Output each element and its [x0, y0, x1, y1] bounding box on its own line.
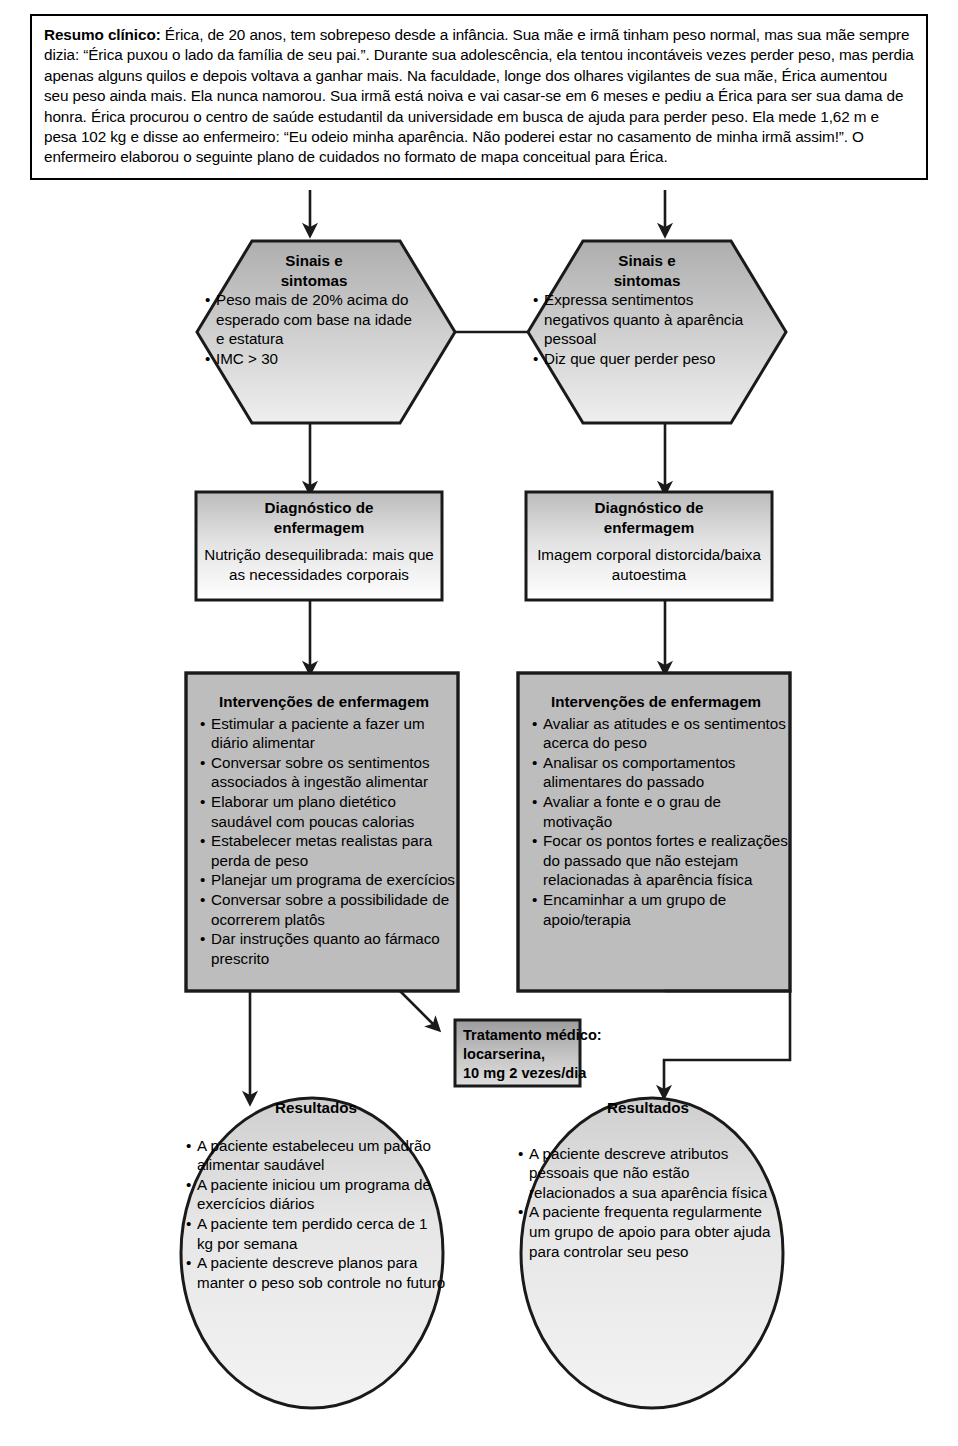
outcomes-left-title: Resultados	[186, 1098, 446, 1118]
outcomes-left-text: Resultados A paciente estabeleceu um pad…	[186, 1098, 446, 1292]
dx-right-title-line1: Diagnóstico de	[526, 498, 772, 518]
concept-map-page: Resumo clínico: Érica, de 20 anos, tem s…	[0, 0, 958, 1446]
interventions-right-bullet-list: Avaliar as atitudes e os sentimentos ace…	[532, 714, 790, 930]
interventions-left-bullet-list: Estimular a paciente a fazer um diário a…	[200, 714, 458, 969]
connector-group-top	[310, 190, 665, 230]
connector-group-dx-to-int	[310, 600, 665, 668]
interventions-left-bullet-4: Estabelecer metas realistas para perda d…	[200, 831, 458, 870]
interventions-left-bullet-5: Planejar um programa de exercícios	[200, 870, 458, 890]
connector-int-left-to-treatment	[400, 991, 435, 1026]
interventions-left-bullet-7: Dar instruções quanto ao fármaco prescri…	[200, 929, 458, 968]
interventions-right-text: Intervenções de enfermagem Avaliar as at…	[522, 692, 790, 929]
interventions-left-bullet-2: Conversar sobre os sentimentos associado…	[200, 753, 458, 792]
treatment-line-3: 10 mg 2 vezes/dia	[463, 1064, 603, 1083]
interventions-right-bullet-1: Avaliar as atitudes e os sentimentos ace…	[532, 714, 790, 753]
treatment-text: Tratamento médico: locarserina, 10 mg 2 …	[463, 1026, 603, 1083]
interventions-left-text: Intervenções de enfermagem Estimular a p…	[190, 692, 458, 968]
signs-left-bullet-1: Peso mais de 20% acima do esperado com b…	[205, 290, 423, 349]
interventions-right-bullet-2: Analisar os comportamentos alimentares d…	[532, 753, 790, 792]
interventions-left-bullet-6: Conversar sobre a possibilidade de ocorr…	[200, 890, 458, 929]
signs-left-title-line2: sintomas	[205, 271, 423, 291]
signs-right-title-line1: Sinais e	[533, 251, 761, 271]
outcomes-left-bullet-2: A paciente iniciou um programa de exercí…	[186, 1175, 446, 1214]
signs-right-title-line2: sintomas	[533, 271, 761, 291]
dx-right-title-line2: enfermagem	[526, 518, 772, 538]
outcomes-left-bullet-3: A paciente tem perdido cerca de 1 kg por…	[186, 1214, 446, 1253]
dx-right-body: Imagem corporal distorcida/baixa autoest…	[526, 545, 772, 584]
interventions-left-bullet-3: Elaborar um plano dietético saudável com…	[200, 792, 458, 831]
interventions-right-bullet-5: Encaminhar a um grupo de apoio/terapia	[532, 890, 790, 929]
treatment-line-2: locarserina,	[463, 1045, 603, 1064]
dx-left-title-line1: Diagnóstico de	[196, 498, 442, 518]
diagnosis-left-text: Diagnóstico de enfermagem Nutrição deseq…	[196, 498, 442, 584]
connector-group-signs-to-dx	[310, 423, 665, 488]
dx-left-body: Nutrição desequilibrada: mais que as nec…	[196, 545, 442, 584]
signs-left-bullet-list: Peso mais de 20% acima do esperado com b…	[205, 290, 423, 368]
diagnosis-right-text: Diagnóstico de enfermagem Imagem corpora…	[526, 498, 772, 584]
signs-left-title-line1: Sinais e	[205, 251, 423, 271]
connector-int-right-to-outcome-right	[664, 991, 790, 1092]
interventions-left-title: Intervenções de enfermagem	[190, 692, 458, 712]
interventions-right-title: Intervenções de enfermagem	[522, 692, 790, 712]
diagram-canvas	[0, 0, 958, 1446]
outcomes-right-title: Resultados	[518, 1098, 778, 1118]
outcomes-left-bullet-list: A paciente estabeleceu um padrão aliment…	[186, 1136, 446, 1293]
signs-right-bullet-2: Diz que quer perder peso	[533, 349, 761, 369]
signs-symptoms-right-text: Sinais e sintomas Expressa sentimentos n…	[533, 251, 761, 369]
outcomes-right-text: Resultados A paciente descreve atributos…	[518, 1098, 778, 1261]
interventions-right-bullet-4: Focar os pontos fortes e realizações do …	[532, 831, 790, 890]
interventions-right-bullet-3: Avaliar a fonte e o grau de motivação	[532, 792, 790, 831]
signs-right-bullet-1: Expressa sentimentos negativos quanto à …	[533, 290, 761, 349]
signs-left-bullet-2: IMC > 30	[205, 349, 423, 369]
interventions-left-bullet-1: Estimular a paciente a fazer um diário a…	[200, 714, 458, 753]
outcomes-left-bullet-4: A paciente descreve planos para manter o…	[186, 1253, 446, 1292]
signs-right-bullet-list: Expressa sentimentos negativos quanto à …	[533, 290, 761, 368]
outcomes-left-bullet-1: A paciente estabeleceu um padrão aliment…	[186, 1136, 446, 1175]
dx-left-title-line2: enfermagem	[196, 518, 442, 538]
outcomes-right-bullet-1: A paciente descreve atributos pessoais q…	[518, 1144, 778, 1203]
outcomes-right-bullet-2: A paciente frequenta regularmente um gru…	[518, 1202, 778, 1261]
signs-symptoms-left-text: Sinais e sintomas Peso mais de 20% acima…	[205, 251, 423, 369]
outcomes-right-bullet-list: A paciente descreve atributos pessoais q…	[518, 1144, 778, 1262]
treatment-line-1: Tratamento médico:	[463, 1026, 603, 1045]
